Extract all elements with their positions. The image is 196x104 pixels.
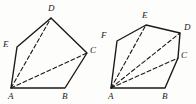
left-figure-group [11,18,87,88]
polygon-diagram-svg [0,0,196,104]
vertex-label-c-right: C [181,51,187,60]
vertex-label-b-right: B [162,92,168,101]
diagonal-a-to-d [111,33,180,88]
vertex-label-e-left: E [3,40,9,49]
right-figure-group [111,25,180,88]
hexagon-outline [111,25,180,88]
vertex-label-d-right: D [184,23,191,32]
vertex-label-f-right: F [101,31,107,40]
vertex-label-d-left: D [48,4,55,13]
vertex-label-a-left: A [8,92,14,101]
diagram-canvas: A B C D E A B C D E F [0,0,196,104]
vertex-label-a-right: A [108,92,114,101]
vertex-label-b-left: B [62,92,68,101]
pentagon-outline [11,18,87,88]
diagonal-a-to-d [11,18,51,88]
vertex-label-e-right: E [142,11,148,20]
vertex-label-c-left: C [90,46,96,55]
diagonal-a-to-c [111,58,178,88]
